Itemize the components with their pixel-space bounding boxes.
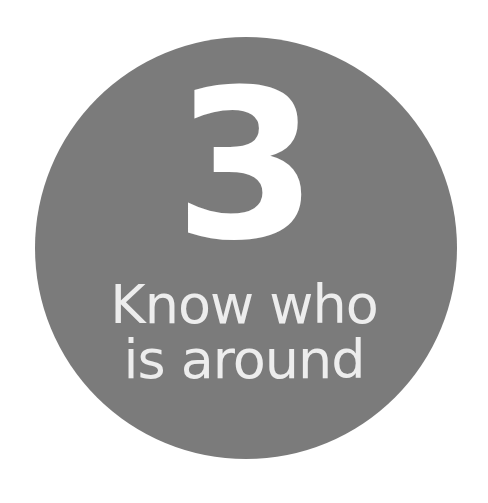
step-number: 3 [0, 66, 488, 266]
caption-line-2: is around [0, 330, 488, 390]
caption-line-1: Know who [0, 275, 488, 335]
